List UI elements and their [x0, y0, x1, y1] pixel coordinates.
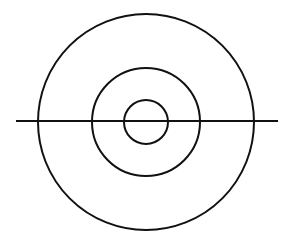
concentric-circles-diagram: [0, 0, 293, 237]
figure-canvas: [0, 0, 293, 237]
background-rect: [0, 0, 293, 237]
